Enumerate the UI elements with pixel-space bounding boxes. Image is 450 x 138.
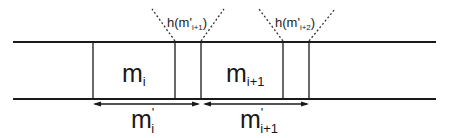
overlap-2-label: h(m'i+2)	[275, 15, 315, 32]
message-overlap-diagram: h(m'i+1) h(m'i+2) mi mi+1 m'i m'i+1	[0, 0, 450, 138]
span-i1-arrowhead-right	[301, 102, 309, 107]
span-i1-label: m'i+1	[240, 105, 278, 136]
block-i1-label: mi+1	[226, 59, 265, 89]
block-i-label: mi	[122, 59, 146, 89]
span-i-arrowhead-right	[192, 102, 200, 107]
span-i-label: m'i	[131, 105, 154, 136]
overlap-1-label: h(m'i+1)	[167, 15, 207, 32]
span-i1-arrowhead-left	[203, 102, 211, 107]
span-i-arrowhead-left	[93, 102, 101, 107]
